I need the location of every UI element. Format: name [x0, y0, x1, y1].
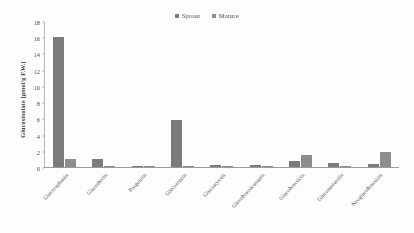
bar-group	[84, 22, 123, 167]
bar-sprout	[132, 166, 143, 167]
legend-label-mature: Mature	[219, 12, 239, 19]
chart-legend: Sprout Mature	[0, 12, 414, 19]
y-axis-tick-mark	[42, 38, 45, 39]
plot-area: 181614121086420	[44, 22, 399, 168]
bar-group	[202, 22, 241, 167]
bar-mature	[380, 152, 391, 167]
bar-mature	[222, 166, 233, 167]
bar-mature	[144, 166, 155, 167]
legend-label-sprout: Sprout	[182, 12, 201, 19]
legend-item-sprout: Sprout	[175, 12, 200, 19]
y-axis-title: Glucosinolate [µmol/g F.W.]	[19, 30, 26, 170]
x-axis-label-cell: Neoglucobrassicin	[360, 170, 399, 232]
x-axis-label: Glucobrassicin	[277, 172, 305, 201]
bar-chart: Sprout Mature Glucosinolate [µmol/g F.W.…	[0, 0, 414, 233]
y-axis-tick-mark	[42, 54, 45, 55]
legend-swatch-sprout	[175, 14, 179, 18]
x-axis-label: Glucoalyssin	[202, 172, 227, 198]
y-axis-tick-mark	[42, 151, 45, 152]
bar-sprout	[250, 165, 261, 167]
bar-group	[124, 22, 163, 167]
x-axis-label-cell: Glucobrassicin	[281, 170, 320, 232]
x-axis-label: Progoitrin	[127, 172, 147, 193]
bar-group	[45, 22, 84, 167]
x-axis-label-cell: Glucobrassicanapin	[242, 170, 281, 232]
x-axis-label-cell: Progoitrin	[124, 170, 163, 232]
x-axis-label-cell: Glucoraphanin	[45, 170, 84, 232]
y-axis-tick-mark	[42, 135, 45, 136]
x-axis-line	[44, 167, 399, 168]
bar-sprout	[92, 159, 103, 167]
x-axis-label: Glucoiberin	[85, 172, 108, 196]
bar-sprout	[53, 37, 64, 168]
x-axis-label-cell: Glucoiberin	[84, 170, 123, 232]
bar-mature	[262, 166, 273, 167]
x-axis-label: Glucoraphanin	[42, 172, 70, 201]
bar-sprout	[210, 165, 221, 167]
bar-group	[281, 22, 320, 167]
bar-sprout	[368, 164, 379, 167]
y-axis-tick-mark	[42, 22, 45, 23]
bar-mature	[65, 159, 76, 167]
y-axis-tick-mark	[42, 119, 45, 120]
bar-sprout	[289, 161, 300, 167]
bar-group	[320, 22, 359, 167]
y-axis-tick-mark	[42, 86, 45, 87]
x-axis-label-cell: Glucoerucin	[163, 170, 202, 232]
bar-group	[360, 22, 399, 167]
x-axis-label: Gluconasturtiin	[316, 172, 345, 202]
bar-series-container	[45, 22, 399, 167]
bar-mature	[104, 166, 115, 167]
bar-group	[242, 22, 281, 167]
x-axis-label: Glucoerucin	[163, 172, 187, 197]
bar-mature	[183, 166, 194, 167]
bar-sprout	[171, 120, 182, 167]
legend-item-mature: Mature	[212, 12, 238, 19]
bar-mature	[301, 155, 312, 167]
bar-sprout	[328, 163, 339, 167]
bar-mature	[340, 166, 351, 167]
y-axis-tick-mark	[42, 103, 45, 104]
legend-swatch-mature	[212, 14, 216, 18]
bar-group	[163, 22, 202, 167]
x-axis-labels: GlucoraphaninGlucoiberinProgoitrinGlucoe…	[45, 170, 399, 232]
y-axis-tick-mark	[42, 168, 45, 169]
y-axis-tick-mark	[42, 70, 45, 71]
